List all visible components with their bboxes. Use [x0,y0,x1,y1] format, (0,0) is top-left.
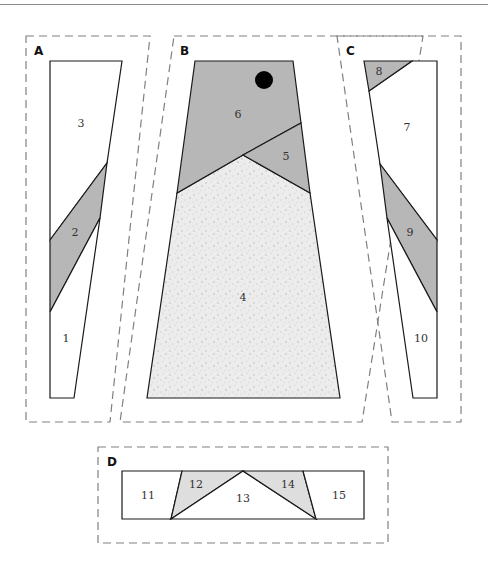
piece-10-number: 10 [414,332,428,345]
piece-13-number: 13 [236,492,250,505]
piece-5-number: 5 [283,150,290,163]
piece-11-number: 11 [141,489,155,502]
section-a: A 3 2 1 [26,36,150,422]
piece-14-number: 14 [281,478,295,491]
section-c: C 8 7 9 10 [337,36,461,422]
piece-8-number: 8 [376,65,383,78]
piece-1-number: 1 [63,332,70,345]
piece-9-number: 9 [407,226,414,239]
section-a-label: A [34,44,44,58]
piece-2-number: 2 [72,226,79,239]
piece-6-number: 6 [235,108,242,121]
piece-4-number: 4 [240,291,247,304]
piece-7-number: 7 [404,121,411,134]
section-c-label: C [346,44,355,58]
section-b-label: B [180,44,189,58]
section-d: D 11 12 13 14 15 [98,447,388,543]
piece-15-number: 15 [332,489,346,502]
piece-4 [147,155,340,398]
orientation-dot [255,71,273,89]
pattern-diagram: A 3 2 1 B 6 5 4 C 8 7 9 10 D [0,0,488,573]
piece-12-number: 12 [189,478,203,491]
section-d-label: D [107,455,117,469]
piece-3-number: 3 [78,117,85,130]
